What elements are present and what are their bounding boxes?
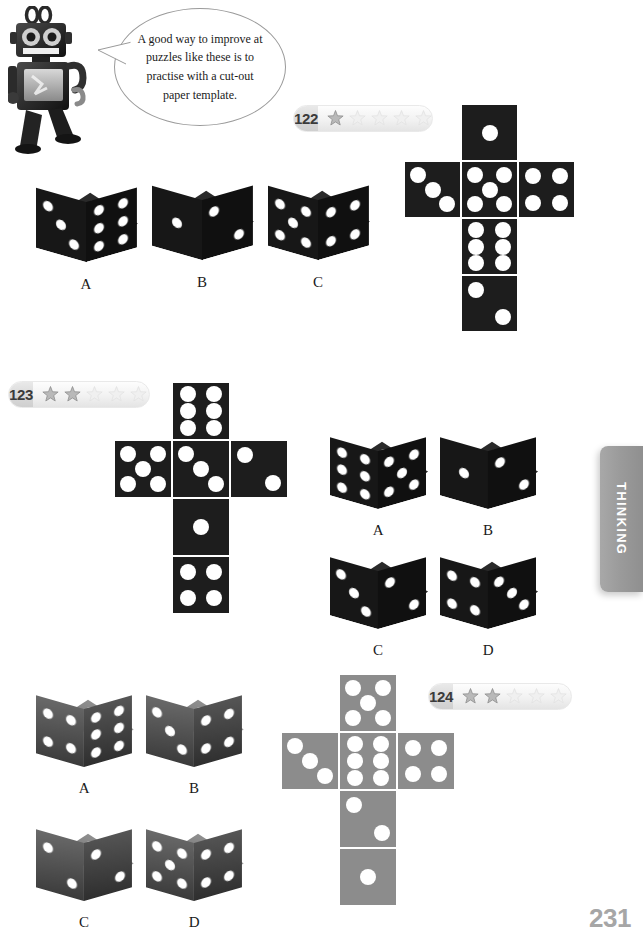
pip: [237, 447, 253, 463]
die-face-front-5: [146, 829, 194, 901]
dice-option-A[interactable]: A: [36, 678, 132, 797]
dice-option-label-A: A: [330, 522, 426, 539]
dice-option-B[interactable]: B: [440, 420, 536, 539]
net-spacer: [114, 556, 172, 614]
pip: [193, 519, 209, 535]
pip: [431, 766, 447, 782]
net-spacer: [518, 275, 575, 332]
pip: [495, 309, 511, 325]
pip: [471, 576, 481, 589]
die-face-front-3: [36, 188, 86, 263]
pip: [361, 453, 371, 466]
die-3d: [440, 540, 536, 639]
dice-option-C[interactable]: C: [268, 168, 368, 291]
pip: [425, 182, 441, 198]
pip: [346, 797, 362, 813]
pip: [482, 125, 498, 141]
pip: [120, 446, 136, 462]
pip: [439, 196, 455, 212]
pip: [468, 239, 484, 255]
pip: [114, 739, 124, 752]
net-face-3: [281, 732, 339, 790]
die-3d: [36, 170, 136, 273]
die-face-front-4: [36, 695, 84, 767]
dice-option-C[interactable]: C: [330, 540, 426, 659]
pip: [209, 206, 219, 219]
pip: [206, 590, 222, 606]
section-tab-thinking[interactable]: THINKING: [600, 446, 643, 592]
pip: [338, 481, 348, 494]
die-3d: [146, 678, 242, 777]
net-spacer: [397, 848, 455, 906]
star-empty-icon: [550, 688, 567, 705]
robot-mascot: [8, 6, 113, 154]
star-empty-icon: [528, 688, 545, 705]
net-face-3: [404, 161, 461, 218]
net-row: [404, 218, 575, 275]
star-filled-icon: [484, 688, 501, 705]
dice-option-B[interactable]: B: [152, 168, 252, 291]
pip: [67, 877, 77, 890]
die-3d: [330, 540, 426, 639]
pip: [67, 714, 77, 727]
pip: [301, 205, 311, 218]
pip: [302, 753, 318, 769]
net-spacer: [404, 104, 461, 161]
pip: [91, 848, 101, 861]
pip: [373, 736, 389, 752]
die-face-right-2: [488, 437, 536, 509]
star-filled-icon: [42, 386, 59, 403]
net-row: [404, 275, 575, 332]
pip: [345, 710, 361, 726]
pip: [468, 255, 484, 271]
die-face-right-2: [84, 829, 132, 901]
die-face-right-6: [84, 695, 132, 767]
dice-option-A[interactable]: A: [330, 420, 426, 539]
pip: [301, 236, 311, 249]
dice-option-D[interactable]: D: [440, 540, 536, 659]
die-face-right-4: [194, 695, 242, 767]
pip: [178, 878, 188, 891]
net-spacer: [518, 218, 575, 275]
pip: [180, 420, 196, 436]
speech-bubble: A good way to improve at puzzles like th…: [114, 8, 286, 126]
pip: [397, 467, 407, 480]
pip: [345, 680, 361, 696]
pip: [135, 461, 151, 477]
dice-net-122: [404, 104, 575, 332]
net-spacer: [397, 790, 455, 848]
pip: [350, 228, 360, 241]
dice-option-C[interactable]: C: [36, 812, 132, 931]
pip: [350, 199, 360, 212]
pip: [180, 564, 196, 580]
net-face-6: [339, 732, 397, 790]
pip: [202, 742, 212, 755]
net-spacer: [230, 382, 288, 440]
pip: [385, 455, 395, 468]
pip: [375, 710, 391, 726]
pip: [114, 722, 124, 735]
die-face-front-6: [330, 437, 378, 509]
robot-illustration: [8, 6, 113, 154]
dice-option-B[interactable]: B: [146, 678, 242, 797]
pip: [362, 606, 372, 619]
pip: [202, 714, 212, 727]
pip: [495, 239, 511, 255]
dice-option-A[interactable]: A: [36, 170, 136, 293]
pip: [178, 446, 194, 462]
net-row: [281, 790, 455, 848]
pip: [43, 200, 53, 213]
pip: [206, 564, 222, 580]
pip: [495, 456, 505, 469]
dice-option-D[interactable]: D: [146, 812, 242, 931]
net-face-4: [518, 161, 575, 218]
pip: [44, 708, 54, 721]
net-face-5: [461, 161, 518, 218]
net-spacer: [281, 790, 339, 848]
dice-option-label-B: B: [152, 274, 252, 291]
pip: [114, 704, 124, 717]
net-row: [281, 732, 455, 790]
page-number: 231: [589, 903, 631, 934]
pip: [482, 182, 498, 198]
dice-option-label-B: B: [146, 780, 242, 797]
